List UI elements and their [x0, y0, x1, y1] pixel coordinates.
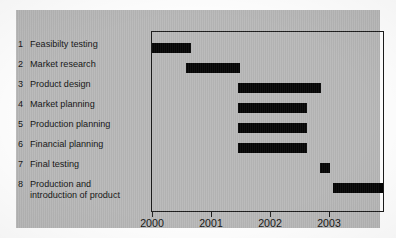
gantt-chart-figure: 1Feasibilty testing2Market research3Prod… [0, 0, 396, 238]
task-number: 6 [18, 139, 30, 150]
x-axis-tick-label: 2003 [307, 217, 351, 230]
gantt-plot-area [151, 31, 384, 212]
task-row[interactable]: 8Production and introduction of product [18, 179, 137, 202]
task-label: Feasibilty testing [30, 39, 137, 50]
gantt-bar[interactable] [186, 63, 240, 73]
task-number: 4 [18, 99, 30, 110]
task-label: Product design [30, 79, 137, 90]
chart-panel: 1Feasibilty testing2Market research3Prod… [16, 10, 380, 228]
task-row[interactable]: 2Market research [18, 59, 137, 70]
gantt-bar[interactable] [320, 163, 331, 173]
task-number: 3 [18, 79, 30, 90]
gantt-bar[interactable] [238, 123, 307, 133]
task-number: 7 [18, 159, 30, 170]
task-row[interactable]: 1Feasibilty testing [18, 39, 137, 50]
gantt-bar[interactable] [152, 43, 191, 53]
x-axis-tick-label: 2001 [189, 217, 233, 230]
task-number: 8 [18, 179, 30, 190]
task-number: 5 [18, 119, 30, 130]
task-label: Market research [30, 59, 137, 70]
task-label: Financial planning [30, 139, 137, 150]
task-row[interactable]: 7Final testing [18, 159, 137, 170]
task-number: 2 [18, 59, 30, 70]
x-axis-tick-label: 2000 [130, 217, 174, 230]
x-axis-tick-label: 2002 [248, 217, 292, 230]
task-row[interactable]: 5Production planning [18, 119, 137, 130]
task-number: 1 [18, 39, 30, 50]
gantt-bar[interactable] [238, 143, 307, 153]
task-label: Production planning [30, 119, 137, 130]
gantt-bar[interactable] [238, 103, 307, 113]
task-row[interactable]: 3Product design [18, 79, 137, 90]
task-row[interactable]: 4Market planning [18, 99, 137, 110]
task-row[interactable]: 6Financial planning [18, 139, 137, 150]
task-label: Market planning [30, 99, 137, 110]
gantt-bar[interactable] [238, 83, 322, 93]
task-label: Production and introduction of product [30, 179, 137, 202]
gantt-bar[interactable] [333, 183, 384, 193]
task-label: Final testing [30, 159, 137, 170]
